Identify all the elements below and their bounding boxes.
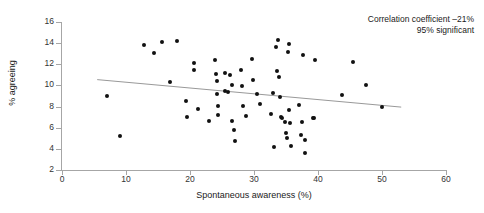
- data-point: [215, 92, 219, 96]
- y-axis-title: % agreeing: [7, 43, 17, 123]
- data-point: [303, 138, 307, 142]
- data-point: [118, 134, 122, 138]
- data-point: [142, 43, 146, 47]
- data-point: [288, 121, 292, 125]
- data-point: [286, 50, 290, 54]
- data-point: [364, 83, 368, 87]
- data-point: [285, 136, 289, 140]
- data-point: [278, 95, 282, 99]
- data-point: [160, 40, 164, 44]
- x-tick-label-0: 0: [47, 175, 77, 184]
- data-point: [301, 53, 305, 57]
- x-tick-label-20: 20: [175, 175, 205, 184]
- data-point: [223, 71, 227, 75]
- y-tick-16: [56, 22, 61, 23]
- y-tick-label-6: 6: [34, 123, 54, 132]
- x-tick-label-60: 60: [431, 175, 461, 184]
- y-tick-12: [56, 64, 61, 65]
- y-tick-2: [56, 170, 61, 171]
- data-point: [275, 69, 279, 73]
- data-point: [287, 42, 291, 46]
- data-point: [207, 119, 211, 123]
- y-tick-label-2: 2: [34, 165, 54, 174]
- y-tick-label-8: 8: [34, 102, 54, 111]
- plot-area: [62, 22, 446, 170]
- data-point: [277, 75, 281, 79]
- y-tick-label-12: 12: [34, 59, 54, 68]
- data-point: [185, 115, 189, 119]
- data-point: [269, 112, 273, 116]
- x-tick-label-50: 50: [367, 175, 397, 184]
- data-point: [284, 131, 288, 135]
- data-point: [192, 61, 196, 65]
- data-point: [230, 83, 234, 87]
- y-tick-label-10: 10: [34, 80, 54, 89]
- data-point: [213, 58, 217, 62]
- data-point: [289, 144, 293, 148]
- data-point: [168, 80, 172, 84]
- data-point: [152, 51, 156, 55]
- y-tick-6: [56, 128, 61, 129]
- y-tick-14: [56, 43, 61, 44]
- y-tick-8: [56, 107, 61, 108]
- y-tick-label-14: 14: [34, 38, 54, 47]
- trend-line: [62, 22, 446, 170]
- data-point: [299, 133, 303, 137]
- x-axis-title: Spontaneous awareness (%): [62, 190, 446, 200]
- data-point: [105, 94, 109, 98]
- y-tick-10: [56, 85, 61, 86]
- y-tick-label-4: 4: [34, 144, 54, 153]
- scatter-chart-figure: 246810121416 0102030405060 % agreeing Sp…: [0, 0, 484, 213]
- data-point: [226, 90, 230, 94]
- y-tick-label-16: 16: [34, 17, 54, 26]
- x-tick-label-40: 40: [303, 175, 333, 184]
- x-tick-label-10: 10: [111, 175, 141, 184]
- x-tick-label-30: 30: [239, 175, 269, 184]
- y-tick-4: [56, 149, 61, 150]
- data-point: [215, 79, 219, 83]
- data-point: [216, 104, 220, 108]
- data-point: [239, 68, 243, 72]
- data-point: [184, 99, 188, 103]
